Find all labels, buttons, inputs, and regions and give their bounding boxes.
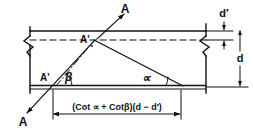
left-break-symbol [24, 27, 33, 93]
section-line-upper-arm [97, 14, 124, 39]
stirrup-axis-dashdot-line [56, 43, 92, 86]
structural-section-diagram: A A A' A' β ∝ d′ d (Cot ∝ + Cotβ)(d − d′… [0, 0, 253, 133]
angle-label-alpha: ∝ [142, 71, 152, 85]
point-label-A-prime-upper: A' [80, 34, 90, 45]
right-break-symbol [200, 24, 209, 93]
upper-intersection-dot [91, 45, 93, 47]
angle-label-beta: β [64, 70, 73, 84]
diagram-canvas: A A A' A' β ∝ d′ d (Cot ∝ + Cotβ)(d − d′… [0, 0, 253, 133]
inclined-crack-line [94, 40, 183, 86]
dimension-label-d-prime: d′ [219, 7, 229, 19]
section-label-A-top: A [121, 2, 130, 16]
section-label-A-bottom: A [19, 115, 28, 129]
point-label-A-prime-lower: A' [40, 72, 50, 83]
dimension-label-d: d [237, 52, 244, 64]
dimension-label-formula: (Cot ∝ + Cotβ)(d − d′) [72, 102, 162, 112]
dprime-dimension [206, 22, 233, 49]
